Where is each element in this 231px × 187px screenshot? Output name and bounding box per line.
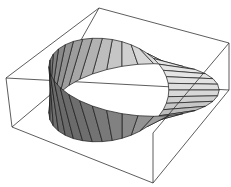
- mobius-strip-surface: [49, 38, 219, 141]
- box-edge: [99, 8, 229, 43]
- box-edge: [6, 78, 12, 127]
- plot-canvas: [0, 0, 231, 187]
- box-edge: [12, 95, 50, 127]
- mobius-strip-plot: [0, 0, 231, 187]
